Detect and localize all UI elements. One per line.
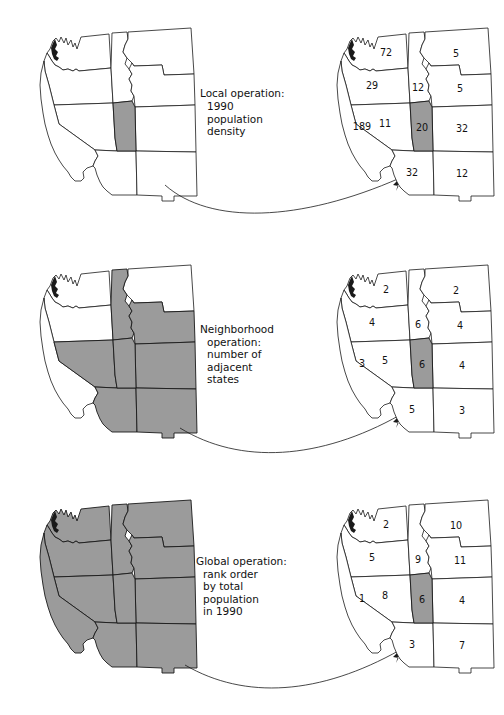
value-NV: 11 (379, 118, 391, 129)
global-caption: Global operation: rank order by total po… (196, 555, 287, 617)
value-MT: 2 (453, 285, 459, 296)
neighborhood-input-map (40, 265, 197, 438)
value-ID: 12 (412, 82, 424, 93)
neighborhood-caption-line-0: Neighborhood (200, 323, 274, 335)
state-CO-highlighted (135, 342, 196, 389)
local-input-map (40, 28, 197, 201)
neighborhood-output-map: 2 4 3 5 6 2 4 6 4 5 3 (337, 265, 494, 438)
value-WA: 2 (383, 284, 389, 295)
value-OR: 5 (369, 552, 375, 563)
value-AZ: 5 (409, 404, 415, 415)
global-caption-line-4: in 1990 (203, 605, 243, 617)
value-WY: 5 (457, 83, 463, 94)
value-WA: 72 (380, 47, 392, 58)
value-CA: 1 (359, 593, 365, 604)
state-UT-highlighted (113, 101, 136, 151)
value-AZ: 32 (406, 167, 418, 178)
value-CO: 4 (459, 595, 465, 606)
value-UT: 6 (419, 594, 425, 605)
value-NV: 8 (382, 590, 388, 601)
local-caption: Local operation: 1990 population density (200, 87, 285, 137)
neighborhood-caption-line-4: states (207, 373, 239, 385)
value-UT: 6 (419, 359, 425, 370)
value-CA: 189 (353, 121, 371, 132)
value-CA: 3 (359, 358, 365, 369)
value-WY: 11 (454, 555, 466, 566)
value-OR: 4 (369, 317, 375, 328)
panel-neighborhood: Neighborhood operation: number of adjace… (40, 265, 494, 453)
global-output-map: 2 5 1 8 9 10 11 6 4 3 7 (337, 500, 494, 673)
state-CO (135, 105, 196, 152)
value-NM: 12 (456, 168, 468, 179)
state-UT-highlighted (113, 573, 136, 623)
state-CO-highlighted (135, 577, 196, 624)
state-NM-highlighted (136, 623, 197, 673)
local-caption-line-0: Local operation: (200, 87, 285, 99)
value-UT: 20 (416, 122, 428, 133)
global-caption-line-2: by total (203, 580, 243, 592)
map-operations-diagram: Local operation: 1990 population density… (0, 0, 504, 715)
panel-local: Local operation: 1990 population density… (40, 28, 494, 213)
neighborhood-caption-line-1: operation: (207, 336, 261, 348)
state-AZ-highlighted (93, 387, 137, 432)
neighborhood-caption-line-3: adjacent (207, 361, 252, 373)
global-caption-line-1: rank order (203, 568, 259, 580)
state-AZ-highlighted (93, 622, 137, 667)
state-NM (136, 151, 197, 201)
state-NM-highlighted (136, 388, 197, 438)
local-caption-line-2: population (207, 113, 263, 125)
state-UT-highlighted (113, 338, 136, 388)
local-output-map: 72 29 189 11 12 5 5 20 32 32 12 (337, 28, 494, 201)
global-caption-line-3: population (203, 593, 259, 605)
global-input-map (40, 500, 197, 673)
value-WY: 4 (457, 320, 463, 331)
panel-global: Global operation: rank order by total po… (40, 500, 494, 688)
local-caption-line-3: density (207, 125, 246, 137)
neighborhood-flow-arrow (180, 415, 400, 453)
value-MT: 5 (453, 48, 459, 59)
value-CO: 4 (459, 360, 465, 371)
value-NM: 3 (459, 405, 465, 416)
value-ID: 6 (415, 319, 421, 330)
neighborhood-caption: Neighborhood operation: number of adjace… (200, 323, 274, 385)
value-OR: 29 (366, 80, 378, 91)
neighborhood-caption-line-2: number of (207, 348, 262, 360)
local-caption-line-1: 1990 (207, 100, 234, 112)
global-flow-arrow (185, 650, 400, 688)
value-AZ: 3 (409, 639, 415, 650)
value-NV: 5 (382, 355, 388, 366)
value-WA: 2 (383, 519, 389, 530)
state-AZ (93, 150, 137, 195)
figure-root: Local operation: 1990 population density… (0, 0, 504, 715)
value-ID: 9 (415, 554, 421, 565)
value-MT: 10 (450, 520, 462, 531)
global-caption-line-0: Global operation: (196, 555, 287, 567)
value-CO: 32 (456, 123, 468, 134)
local-flow-arrow (165, 178, 400, 213)
value-NM: 7 (459, 640, 465, 651)
